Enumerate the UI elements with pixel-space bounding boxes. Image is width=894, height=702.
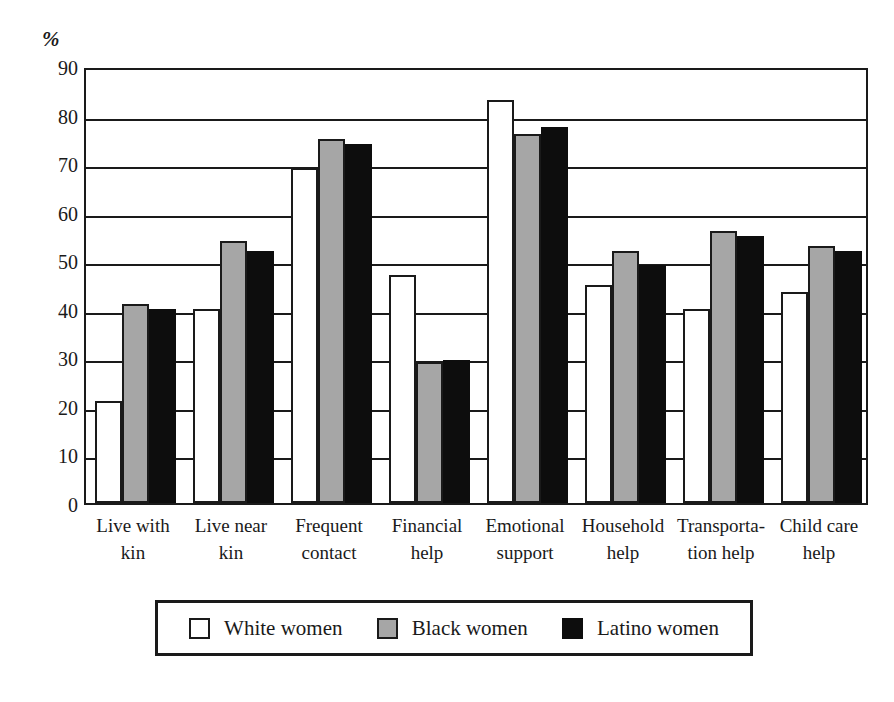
bar	[416, 362, 443, 503]
bar	[122, 304, 149, 503]
chart-legend: White womenBlack womenLatino women	[155, 600, 753, 656]
bar	[639, 265, 666, 503]
bar-group	[282, 70, 380, 503]
bar-group	[478, 70, 576, 503]
legend-swatch-white	[189, 618, 210, 639]
bar-group	[772, 70, 870, 503]
x-axis-label-line: Emotional	[476, 512, 574, 539]
bar	[781, 292, 808, 503]
y-axis-unit-label: %	[42, 27, 59, 52]
y-tick-label-20: 20	[32, 398, 78, 418]
x-axis-label-line: Frequent	[280, 512, 378, 539]
x-axis-label-line: tion help	[672, 539, 770, 566]
x-axis-label-line: Live near	[182, 512, 280, 539]
legend-swatch-gray	[377, 618, 398, 639]
x-axis-label: Child carehelp	[770, 512, 868, 566]
y-tick-label-50: 50	[32, 252, 78, 272]
y-tick-label-0: 0	[32, 495, 78, 515]
bar	[149, 309, 176, 503]
y-axis-tick-labels: 9080706050403020100	[26, 68, 78, 505]
bar	[683, 309, 710, 503]
x-axis-label-line: help	[574, 539, 672, 566]
bar	[835, 251, 862, 503]
x-axis-label: Live withkin	[84, 512, 182, 566]
bar-group	[380, 70, 478, 503]
legend-item: Black women	[377, 616, 528, 641]
y-tick-label-10: 10	[32, 446, 78, 466]
x-axis-label-line: kin	[84, 539, 182, 566]
x-axis-label-line: Household	[574, 512, 672, 539]
x-axis-label-line: support	[476, 539, 574, 566]
legend-label: White women	[224, 616, 342, 641]
legend-item: Latino women	[562, 616, 719, 641]
bar-group	[184, 70, 282, 503]
x-axis-label-line: contact	[280, 539, 378, 566]
x-axis-label-line: Transporta-	[672, 512, 770, 539]
x-axis-label: Financialhelp	[378, 512, 476, 566]
bar-group	[674, 70, 772, 503]
y-tick-label-90: 90	[32, 58, 78, 78]
bar	[541, 127, 568, 503]
bar	[443, 360, 470, 503]
x-axis-label-line: help	[770, 539, 868, 566]
bar	[808, 246, 835, 503]
bar	[220, 241, 247, 503]
bar	[389, 275, 416, 503]
bar	[710, 231, 737, 503]
x-axis-label: Frequentcontact	[280, 512, 378, 566]
x-axis-label: Householdhelp	[574, 512, 672, 566]
plot-area	[84, 68, 868, 505]
legend-item: White women	[189, 616, 342, 641]
bar	[291, 168, 318, 503]
y-tick-label-40: 40	[32, 301, 78, 321]
bar-chart-figure: % 9080706050403020100 Live withkinLive n…	[0, 0, 894, 702]
bar	[514, 134, 541, 503]
y-tick-label-80: 80	[32, 107, 78, 127]
bar	[247, 251, 274, 503]
x-axis-label: Live nearkin	[182, 512, 280, 566]
x-axis-label: Transporta-tion help	[672, 512, 770, 566]
legend-swatch-black	[562, 618, 583, 639]
legend-label: Latino women	[597, 616, 719, 641]
bar-group	[576, 70, 674, 503]
x-axis-category-labels: Live withkinLive nearkinFrequentcontactF…	[84, 512, 868, 574]
bar	[318, 139, 345, 503]
bar-group	[86, 70, 184, 503]
bar	[612, 251, 639, 503]
bar	[193, 309, 220, 503]
y-tick-label-70: 70	[32, 155, 78, 175]
y-tick-label-30: 30	[32, 349, 78, 369]
x-axis-label-line: kin	[182, 539, 280, 566]
y-tick-label-60: 60	[32, 204, 78, 224]
x-axis-label: Emotionalsupport	[476, 512, 574, 566]
x-axis-label-line: help	[378, 539, 476, 566]
x-axis-label-line: Financial	[378, 512, 476, 539]
legend-label: Black women	[412, 616, 528, 641]
bar	[737, 236, 764, 503]
bar	[487, 100, 514, 503]
bar	[345, 144, 372, 503]
x-axis-label-line: Child care	[770, 512, 868, 539]
bar	[585, 285, 612, 504]
bars-layer	[86, 70, 866, 503]
x-axis-label-line: Live with	[84, 512, 182, 539]
bar	[95, 401, 122, 503]
